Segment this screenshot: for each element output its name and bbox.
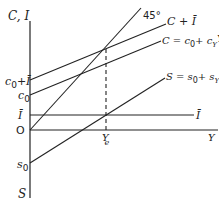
consumption-line [30,41,161,95]
vertical-axis-bottom-label: S [18,187,26,201]
45-degree-label: 45° [143,10,161,21]
consumption-function-label: C = c0+ cYY [162,33,219,49]
horizontal-axis-label: Y [208,132,216,143]
c-plus-i-line [30,24,166,80]
c0-plus-ibar-label: c0+Ī [5,75,31,90]
45-degree-line [30,8,141,130]
saving-function-label: S = s0+ sYY [166,69,219,85]
s0-label: s0 [17,158,29,173]
c0-label: c0 [18,89,30,104]
keynesian-cross-diagram: C, I S Y O c0+Ī c0 Ī s0 45° C + Ī C = c0… [0,0,219,205]
saving-line [30,78,165,163]
vertical-axis-top-label: C, I [8,9,29,23]
ibar-axis-label: Ī [17,109,23,122]
origin-label: O [16,124,25,137]
c-plus-i-label: C + Ī [167,15,197,28]
equilibrium-income-label: Ye [102,132,110,147]
investment-line-label: Ī [195,109,201,122]
